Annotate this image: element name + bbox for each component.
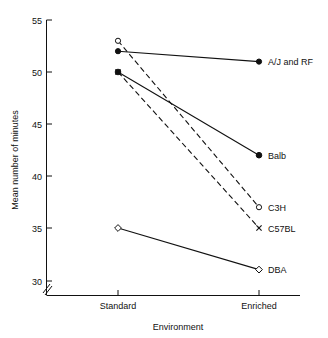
x-tick-label-enriched: Enriched [241,301,277,311]
series-aj-rf: A/J and RF [115,49,313,67]
y-tick-label-40: 40 [32,172,42,182]
chart-canvas: 55 50 45 40 35 30 Mean number of minutes… [0,0,328,338]
x-axis-title: Environment [153,322,204,332]
data-point-balb-enriched [256,152,262,158]
series-label-aj-rf: A/J and RF [268,57,314,67]
y-axis-break-icon [43,284,52,295]
data-point-c3h-standard [115,38,120,43]
series-balb: Balb [115,69,286,160]
series-line-aj-rf [118,51,259,61]
series-line-c57bl [118,72,259,228]
series-label-dba: DBA [268,265,287,275]
data-point-dba-standard [115,225,122,232]
series-line-balb [118,72,259,155]
line-chart: 55 50 45 40 35 30 Mean number of minutes… [0,0,328,338]
data-point-aj-rf-enriched [256,59,261,64]
data-point-c3h-enriched [256,205,261,210]
y-tick-label-50: 50 [32,68,42,78]
series-label-c3h: C3H [268,203,286,213]
series-label-balb: Balb [268,151,286,161]
y-tick-label-55: 55 [32,16,42,26]
data-point-aj-rf-standard [115,49,120,54]
series-line-c3h [118,41,259,207]
series-dba: DBA [115,225,287,275]
data-point-c57bl-enriched [256,225,261,230]
y-axis-title: Mean number of minutes [10,110,20,210]
y-axis: 55 50 45 40 35 30 Mean number of minutes [10,16,52,296]
series-line-dba [118,228,259,270]
y-tick-label-35: 35 [32,224,42,234]
y-tick-label-45: 45 [32,120,42,130]
y-tick-label-30: 30 [32,277,42,287]
x-tick-label-standard: Standard [100,301,137,311]
series-label-c57bl: C57BL [268,224,296,234]
x-axis: Standard Enriched Environment [47,290,301,332]
data-point-dba-enriched [256,266,263,273]
